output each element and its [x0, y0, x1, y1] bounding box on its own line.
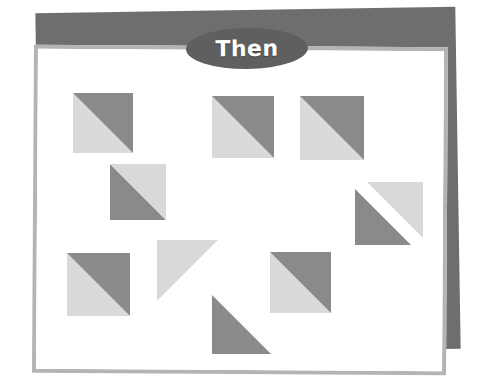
square-3[interactable]	[300, 96, 364, 160]
square-8[interactable]	[270, 252, 331, 313]
slide-canvas: Then	[0, 0, 491, 389]
square-2[interactable]	[212, 96, 274, 158]
title-text: Then	[215, 37, 278, 60]
square-4[interactable]	[110, 164, 166, 220]
square-1[interactable]	[73, 93, 133, 153]
square-6[interactable]	[67, 253, 130, 316]
